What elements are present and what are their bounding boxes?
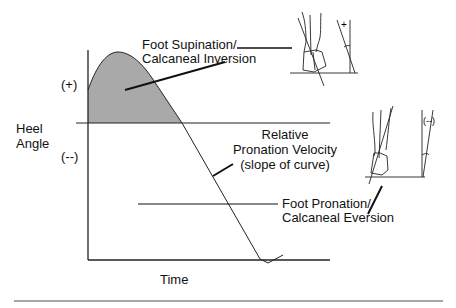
- y-axis-label-angle: Angle: [16, 136, 49, 151]
- y-negative-label: (--): [61, 149, 78, 164]
- y-axis-label-heel: Heel: [16, 121, 43, 136]
- y-positive-label: (+): [61, 77, 77, 92]
- velocity-label-line2: Pronation Velocity: [230, 142, 340, 157]
- velocity-label-line3: (slope of curve): [230, 157, 340, 172]
- pronation-label-line1: Foot Pronation/: [282, 196, 371, 211]
- supinated-foot-illustration: [290, 12, 358, 86]
- supination-label-line2: Calcaneal Inversion: [142, 51, 256, 66]
- supination-label-line1: Foot Supination/: [142, 37, 237, 52]
- pronation-label-line2: Calcaneal Eversion: [282, 210, 394, 225]
- x-axis-label-time: Time: [160, 272, 188, 287]
- inset-bottom-angle-sign: (--): [423, 116, 435, 126]
- velocity-label-line1: Relative: [230, 127, 340, 142]
- inset-top-angle-sign: +: [341, 19, 347, 30]
